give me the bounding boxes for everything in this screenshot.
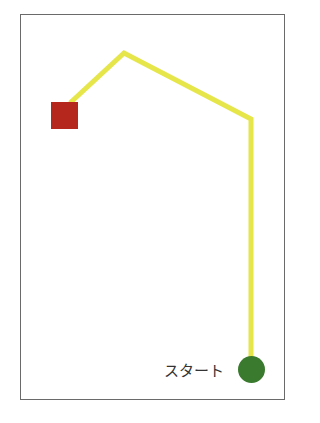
- goal-square: [51, 102, 78, 129]
- start-label: スタート: [164, 359, 224, 380]
- start-circle: [238, 356, 265, 383]
